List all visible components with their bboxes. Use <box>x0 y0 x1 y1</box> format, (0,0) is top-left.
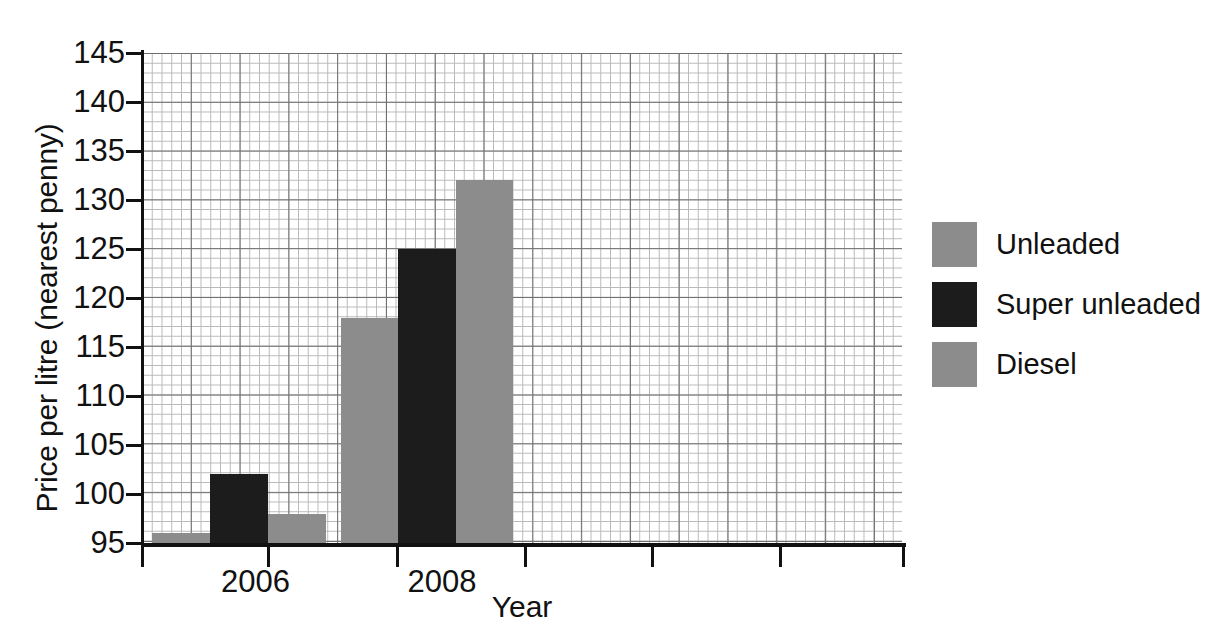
y-axis-tick-label: 105 <box>35 429 125 460</box>
legend-swatch-icon <box>932 282 977 327</box>
y-axis-tick-label: 135 <box>35 135 125 166</box>
bar-diesel-2008 <box>456 180 513 543</box>
y-axis-tick-label: 115 <box>35 331 125 362</box>
legend-label: Diesel <box>996 350 1077 379</box>
chart-legend: UnleadedSuper unleadedDiesel <box>932 214 1212 394</box>
x-axis-category-label: 2006 <box>176 565 336 599</box>
grid-lines <box>142 53 903 543</box>
y-axis-tick <box>126 542 142 545</box>
bar-super-unleaded-2008 <box>398 249 456 543</box>
bar-unleaded-2008 <box>341 318 398 543</box>
x-axis-tick <box>524 547 527 567</box>
y-axis-tick <box>126 101 142 104</box>
y-axis-tick <box>126 150 142 153</box>
y-axis-tick <box>126 248 142 251</box>
y-axis-tick-label: 130 <box>35 184 125 215</box>
y-axis-tick <box>126 346 142 349</box>
y-axis-tick <box>126 395 142 398</box>
x-axis-tick <box>396 547 399 567</box>
plot-area <box>142 53 903 543</box>
y-axis-tick-label: 120 <box>35 282 125 313</box>
y-axis-tick <box>126 297 142 300</box>
x-axis-tick <box>902 547 905 567</box>
legend-item-diesel: Diesel <box>932 334 1212 394</box>
bar-unleaded-2006 <box>152 533 210 543</box>
y-axis-tick-label: 100 <box>35 478 125 509</box>
y-axis-tick <box>126 493 142 496</box>
bar-super-unleaded-2006 <box>210 474 268 543</box>
y-axis-tick-label: 125 <box>35 233 125 264</box>
x-axis-tick <box>651 547 654 567</box>
y-axis-tick <box>126 444 142 447</box>
legend-swatch-icon <box>932 222 977 267</box>
y-axis-tick-label: 140 <box>35 86 125 117</box>
x-axis-tick <box>779 547 782 567</box>
y-axis-tick-label: 145 <box>35 37 125 68</box>
chart-canvas: Price per litre (nearest penny) 95100105… <box>0 0 1216 637</box>
y-axis-tick <box>126 52 142 55</box>
plot-right-mask <box>902 53 904 545</box>
legend-label: Unleaded <box>996 230 1120 259</box>
y-axis-tick <box>126 199 142 202</box>
bar-diesel-2006 <box>268 514 326 543</box>
y-axis-tick-label: 95 <box>35 527 125 558</box>
legend-swatch-icon <box>932 342 977 387</box>
legend-item-unleaded: Unleaded <box>932 214 1212 274</box>
legend-label: Super unleaded <box>996 290 1201 319</box>
legend-item-super-unleaded: Super unleaded <box>932 274 1212 334</box>
x-axis-title: Year <box>432 590 612 624</box>
y-axis-tick-label: 110 <box>35 380 125 411</box>
x-axis-tick <box>141 547 144 567</box>
